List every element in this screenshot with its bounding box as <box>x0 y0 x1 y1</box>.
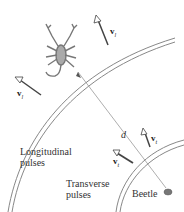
transverse-label: Transversepulses <box>66 178 110 200</box>
transverse-wavefront-inner <box>120 145 184 212</box>
transverse-wavefront-outer <box>116 140 184 212</box>
vl-label-upper: vl <box>110 26 116 38</box>
longitudinal-label: Longitudinalpulses <box>20 146 72 168</box>
vt-arrowhead-upper <box>141 128 147 135</box>
vl-label-left: vl <box>17 88 23 100</box>
vt-arrow-left <box>117 153 133 163</box>
scorpion-icon <box>46 24 77 76</box>
vl-arrow-upper <box>98 20 108 45</box>
vt-label-left: vt <box>113 156 119 168</box>
distance-label: d <box>121 129 126 140</box>
vt-label-upper: vt <box>151 133 157 145</box>
vl-arrowhead-upper <box>94 15 101 23</box>
beetle-label: Beetle <box>132 188 158 199</box>
beetle-icon <box>164 189 172 195</box>
vt-arrow-upper <box>145 133 150 147</box>
